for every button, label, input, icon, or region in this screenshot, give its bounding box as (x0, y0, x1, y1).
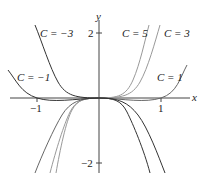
curve-cneg1-right (99, 98, 165, 173)
label-c-1: C = 1 (157, 71, 183, 83)
label-c-3: C = 3 (164, 27, 190, 39)
curve-cneg3-right (99, 98, 150, 173)
label-c-neg1: C = −1 (17, 71, 50, 83)
label-c-5: C = 5 (122, 27, 148, 39)
tick-label-y-neg2: −2 (81, 157, 93, 169)
tick-label-x-1: 1 (158, 102, 164, 114)
chart: x y −1 1 2 −2 C = −3 C = −1 C = 5 C = 3 … (0, 0, 202, 173)
x-axis-label: x (191, 91, 197, 103)
tick-label-x-neg1: −1 (30, 102, 42, 114)
label-c-neg3: C = −3 (40, 27, 74, 39)
tick-label-y-2: 2 (88, 27, 94, 39)
y-axis-label: y (95, 10, 101, 22)
